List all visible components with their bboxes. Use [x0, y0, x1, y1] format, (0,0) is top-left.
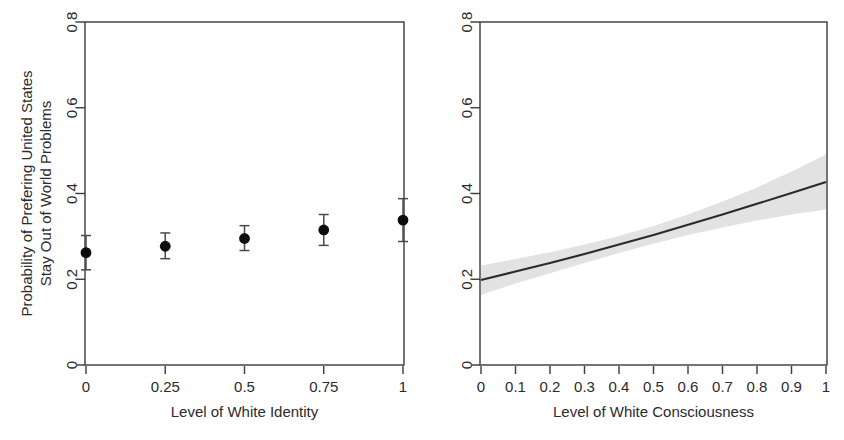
x-tick-label: 0.75 [309, 378, 338, 395]
data-point [398, 215, 409, 226]
x-tick-label: 0.25 [151, 378, 180, 395]
data-point [318, 225, 329, 236]
x-tick-label: 0.8 [747, 378, 768, 395]
data-point [81, 247, 92, 258]
plot-frame [85, 22, 404, 365]
line-plot-white-consciousness: 00.20.40.60.800.10.20.30.40.50.60.70.80.… [422, 0, 844, 440]
y-tick-label: 0.4 [458, 183, 475, 204]
data-series-group [81, 199, 409, 270]
y-tick-label: 0.6 [458, 97, 475, 118]
confidence-band [481, 155, 826, 296]
y-tick-label: 0.2 [63, 269, 80, 290]
x-tick-label: 0.9 [781, 378, 802, 395]
data-point [160, 241, 171, 252]
x-axis-title: Level of White Identity [171, 403, 319, 420]
y-tick-label: 0.8 [63, 12, 80, 33]
x-tick-label: 0.3 [574, 378, 595, 395]
panel-white-consciousness: 00.20.40.60.800.10.20.30.40.50.60.70.80.… [422, 0, 844, 440]
x-tick-label: 0 [82, 378, 90, 395]
x-tick-label: 1 [399, 378, 407, 395]
y-tick-label: 0.2 [458, 269, 475, 290]
x-tick-label: 0.5 [643, 378, 664, 395]
y-axis-title-line-1: Probability of Prefering United States [18, 71, 35, 317]
x-tick-label: 0.1 [505, 378, 526, 395]
y-tick-label: 0 [63, 361, 80, 369]
x-tick-label: 1 [822, 378, 830, 395]
x-tick-label: 0.7 [712, 378, 733, 395]
x-tick-label: 0.2 [540, 378, 561, 395]
y-tick-label: 0 [458, 361, 475, 369]
figure-container: 00.20.40.60.800.250.50.751Level of White… [0, 0, 844, 440]
y-tick-label: 0.4 [63, 183, 80, 204]
y-axis-title-line-2: Stay Out of World Problems [37, 101, 54, 287]
x-tick-label: 0 [477, 378, 485, 395]
x-tick-label: 0.5 [234, 378, 255, 395]
x-tick-label: 0.4 [609, 378, 630, 395]
x-tick-label: 0.6 [678, 378, 699, 395]
panel-white-identity: 00.20.40.60.800.250.50.751Level of White… [0, 0, 422, 440]
x-axis-title: Level of White Consciousness [553, 403, 754, 420]
scatter-plot-white-identity: 00.20.40.60.800.250.50.751Level of White… [0, 0, 422, 440]
y-tick-label: 0.8 [458, 12, 475, 33]
y-tick-label: 0.6 [63, 97, 80, 118]
data-point [239, 233, 250, 244]
